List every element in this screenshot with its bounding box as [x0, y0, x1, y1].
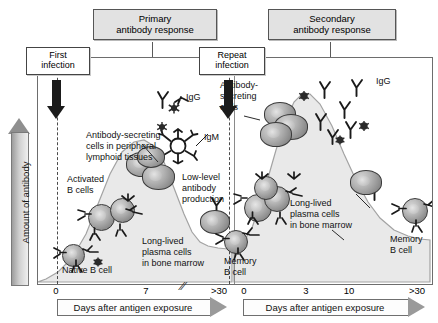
bracket-tick-primary [152, 42, 153, 57]
repeat-infection-line2: infection [205, 60, 259, 70]
x-axis-bar-left: Days after antigen exposure [57, 299, 227, 316]
event-repeat-infection: Repeat infection [199, 47, 265, 75]
bracket-tick-secondary [330, 42, 331, 57]
xtick-right-30: >30 [404, 285, 430, 296]
y-axis-shaft: Amount of antibody [11, 132, 29, 286]
y-axis: Amount of antibody [8, 118, 30, 284]
phase-secondary-line2: antibody response [269, 24, 395, 35]
y-axis-label: Amount of antibody [20, 128, 31, 278]
xtick-right-3: 3 [296, 285, 316, 296]
xtick-right-0: 0 [234, 285, 254, 296]
label-igg-left: IgG [186, 92, 201, 103]
repeat-infection-line1: Repeat [205, 50, 259, 60]
x-axis-label-left: Days after antigen exposure [57, 302, 209, 313]
x-axis-label-right: Days after antigen exposure [243, 302, 407, 313]
igm-leader-line [188, 130, 212, 152]
phase-secondary-line1: Secondary [269, 13, 395, 24]
event-first-infection: First infection [26, 47, 90, 75]
xtick-left-0: 0 [46, 285, 66, 296]
phase-primary-line2: antibody response [94, 24, 216, 35]
phase-primary-line1: Primary [94, 13, 216, 24]
antibody-response-figure: Primary antibody response Secondary anti… [0, 0, 438, 323]
label-igg-right: IgG [376, 76, 391, 87]
xtick-left-7: 7 [136, 285, 156, 296]
phase-label-secondary: Secondary antibody response [268, 9, 396, 40]
x-axis-bar-left-arrowhead [210, 297, 227, 317]
phase-label-primary: Primary antibody response [93, 9, 217, 40]
x-axis-bar-right-arrowhead [408, 297, 425, 317]
x-axis-bar-right: Days after antigen exposure [243, 299, 425, 316]
first-infection-line2: infection [32, 60, 84, 70]
xtick-right-10: 10 [338, 285, 360, 296]
xtick-left-30: >30 [206, 285, 232, 296]
plot-area: Antibody-secreting cells in peripheral l… [37, 57, 433, 285]
label-leader-lines [38, 58, 432, 284]
first-infection-line1: First [32, 50, 84, 60]
